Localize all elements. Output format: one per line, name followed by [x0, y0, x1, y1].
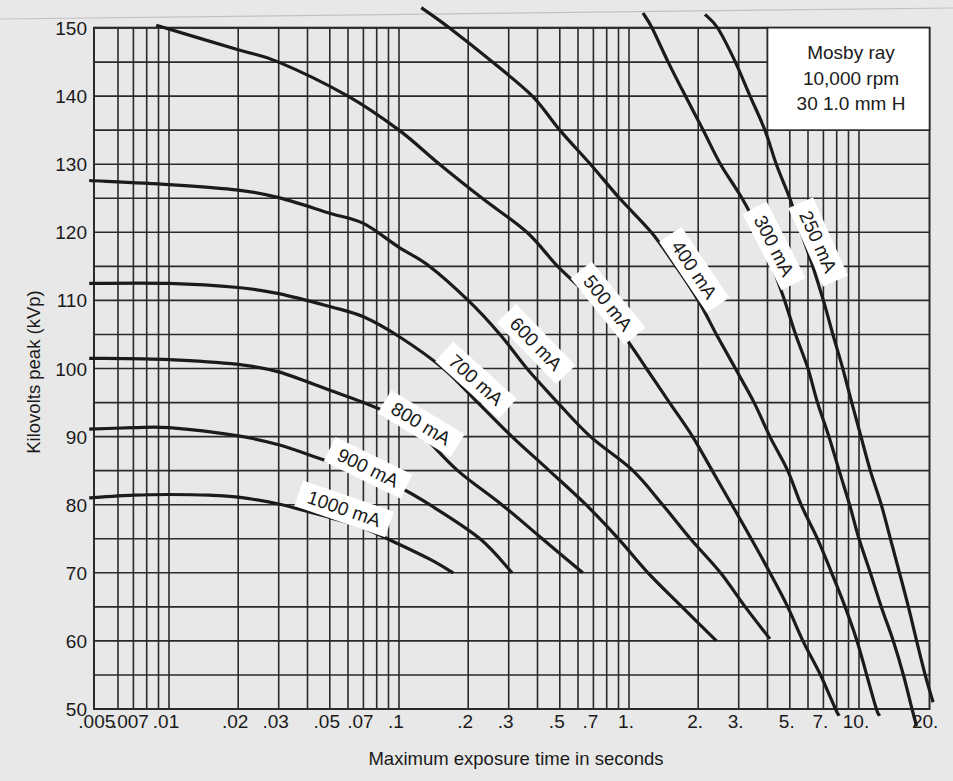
annotation-line-focal-spot: 30 1.0 mm H	[797, 93, 906, 114]
annotation-line-rpm: 10,000 rpm	[803, 68, 899, 89]
x-tick-label: 1.	[618, 711, 634, 732]
y-tick-label: 110	[57, 290, 87, 311]
y-tick-label: 130	[55, 154, 87, 175]
y-tick-label: 60	[66, 631, 87, 652]
y-axis-title: Kilovolts peak (kVp)	[23, 290, 44, 453]
x-tick-label: 2.	[687, 711, 703, 732]
y-tick-label: 150	[55, 18, 87, 39]
y-tick-label: 120	[55, 222, 87, 243]
x-tick-label: 20.	[912, 711, 938, 732]
x-tick-label: .07	[347, 711, 373, 732]
y-tick-label: 100	[55, 359, 87, 380]
y-tick-label: 80	[66, 495, 87, 516]
y-tick-label: 70	[66, 563, 87, 584]
x-tick-label: 7.	[812, 711, 828, 732]
x-tick-label: .02	[222, 711, 248, 732]
annotation-line-tube: Mosby ray	[807, 42, 895, 63]
x-tick-label: 3.	[728, 711, 744, 732]
x-tick-label: .5	[549, 711, 565, 732]
x-tick-label: .005	[78, 711, 115, 732]
x-tick-label: .01	[153, 711, 179, 732]
y-tick-label: 140	[55, 86, 87, 107]
x-tick-label: .007	[112, 711, 149, 732]
chart-canvas: 1000 mA900 mA800 mA700 mA600 mA500 mA400…	[0, 0, 953, 781]
x-tick-label: .2	[457, 711, 473, 732]
x-tick-label: .1	[388, 711, 404, 732]
x-tick-label: .3	[498, 711, 514, 732]
x-tick-label: 10.	[843, 711, 869, 732]
annotation-box-text: Mosby ray 10,000 rpm 30 1.0 mm H	[797, 42, 906, 114]
y-tick-label: 90	[66, 427, 87, 448]
x-tick-label: 5.	[779, 711, 795, 732]
x-tick-label: .03	[262, 711, 288, 732]
x-axis-title: Maximum exposure time in seconds	[368, 748, 663, 769]
exposure-rating-chart: 1000 mA900 mA800 mA700 mA600 mA500 mA400…	[0, 0, 953, 781]
x-tick-label: .05	[314, 711, 340, 732]
x-tick-label: .7	[582, 711, 598, 732]
